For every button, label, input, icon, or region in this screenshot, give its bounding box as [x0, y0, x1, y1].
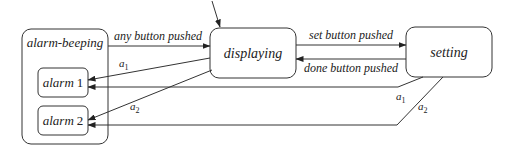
transition-done-button: done button pushed	[296, 59, 406, 75]
transition-setting-alarm2: a2	[88, 77, 443, 125]
state-alarm-beeping-label: alarm-beeping	[27, 35, 104, 50]
any-button-label: any button pushed	[114, 29, 203, 43]
state-alarm-1-label: alarm1	[43, 75, 84, 90]
state-setting: setting	[406, 27, 492, 77]
initial-transition-arrow	[212, 1, 220, 27]
state-alarm-2-label: alarm2	[43, 113, 84, 128]
state-alarm-2: alarm2	[38, 106, 88, 135]
transition-set-button: set button pushed	[296, 28, 406, 45]
state-setting-label: setting	[430, 45, 467, 60]
set-button-label: set button pushed	[309, 28, 394, 42]
setting-a2-label: a2	[418, 100, 428, 115]
displaying-a1-label: a1	[119, 57, 129, 72]
setting-a2-arrow	[88, 77, 443, 125]
transition-any-button: any button pushed	[108, 29, 210, 46]
transition-setting-alarm1: a1	[88, 77, 423, 105]
state-displaying-label: displaying	[224, 46, 282, 61]
setting-a1-label: a1	[396, 90, 406, 105]
state-diagram: alarm-beeping alarm1 alarm2 displaying s…	[0, 0, 515, 152]
done-button-label: done button pushed	[304, 61, 399, 75]
state-alarm-1: alarm1	[38, 68, 88, 97]
state-displaying: displaying	[210, 28, 296, 78]
displaying-a2-label: a2	[130, 100, 140, 115]
